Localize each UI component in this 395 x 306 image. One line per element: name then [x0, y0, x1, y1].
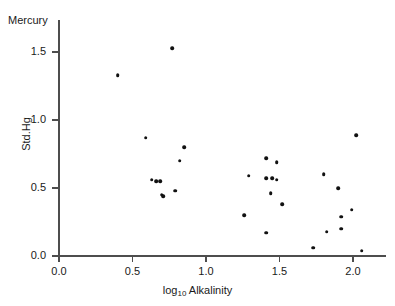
x-tick-label: 0.5	[113, 266, 153, 277]
x-axis-label-rest: Alkalinity	[186, 284, 232, 296]
data-point	[182, 145, 186, 149]
data-point	[159, 179, 163, 183]
data-point	[264, 231, 268, 235]
y-tick	[52, 255, 58, 257]
data-point	[322, 173, 326, 177]
data-point	[150, 178, 154, 182]
data-point	[173, 189, 177, 193]
x-tick	[58, 256, 60, 262]
data-point	[116, 73, 120, 77]
y-tick-label: 0.0	[31, 250, 46, 261]
data-point	[350, 208, 354, 212]
data-point	[312, 246, 316, 250]
data-point	[160, 193, 164, 197]
chart-title: Mercury	[8, 14, 48, 26]
y-tick	[52, 119, 58, 121]
data-point	[269, 192, 273, 196]
data-point	[247, 174, 251, 178]
data-point	[337, 186, 341, 190]
scatter-chart: Mercury Std.Hg 0.00.51.01.5 0.00.51.01.5…	[0, 0, 395, 306]
data-point	[242, 213, 246, 217]
x-tick-label: 1.0	[186, 266, 226, 277]
x-tick-label: 1.5	[260, 266, 300, 277]
y-tick-label: 1.0	[31, 114, 46, 125]
x-axis-label-base: log	[163, 284, 178, 296]
y-tick	[52, 51, 58, 53]
data-point	[264, 177, 268, 181]
data-point	[144, 136, 148, 140]
x-tick	[205, 256, 207, 262]
y-tick	[52, 187, 58, 189]
data-point	[270, 177, 274, 181]
x-tick	[132, 256, 134, 262]
x-tick	[352, 256, 354, 262]
x-axis-label: log10 Alkalinity	[0, 284, 395, 300]
data-point	[339, 227, 343, 231]
data-point	[264, 156, 268, 160]
plot-area	[59, 20, 395, 256]
y-tick-label: 1.5	[31, 46, 46, 57]
data-point	[354, 133, 358, 137]
data-point	[275, 160, 279, 164]
x-tick-label: 0.0	[39, 266, 79, 277]
y-tick-label: 0.5	[31, 182, 46, 193]
x-tick-label: 2.0	[333, 266, 373, 277]
data-point	[178, 159, 182, 163]
data-point	[154, 179, 158, 183]
data-point	[170, 46, 174, 50]
data-point	[281, 203, 285, 207]
data-point	[339, 215, 343, 219]
data-point	[325, 230, 329, 234]
data-point	[275, 178, 279, 182]
x-tick	[279, 256, 281, 262]
data-point	[360, 249, 364, 253]
